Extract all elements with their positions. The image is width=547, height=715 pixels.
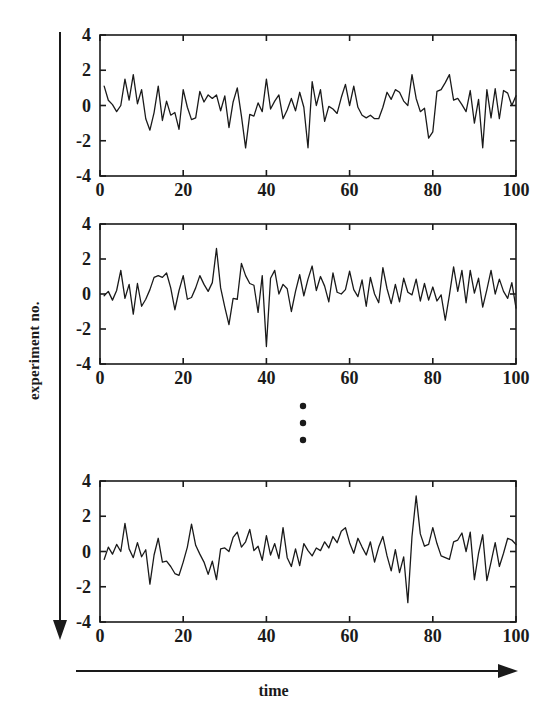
x-tick-label: 0 <box>96 180 105 200</box>
y-tick-label: -4 <box>76 612 91 632</box>
panel-frame <box>100 224 516 364</box>
plot-canvas: -4-2024020406080100-4-2024020406080100-4… <box>0 0 547 715</box>
chart-panel-2: -4-2024020406080100 <box>76 214 530 388</box>
x-tick-label: 40 <box>257 368 275 388</box>
x-tick-label: 20 <box>174 368 192 388</box>
x-tick-label: 20 <box>174 626 192 646</box>
y-tick-label: -2 <box>76 319 91 339</box>
x-tick-label: 40 <box>257 626 275 646</box>
x-tick-label: 60 <box>341 368 359 388</box>
y-tick-label: 2 <box>82 60 91 80</box>
panels-layer: -4-2024020406080100-4-2024020406080100-4… <box>76 25 530 646</box>
vertical-ellipsis-icon <box>300 403 306 443</box>
y-tick-label: 2 <box>82 506 91 526</box>
y-tick-label: 4 <box>82 214 91 234</box>
y-tick-label: 2 <box>82 249 91 269</box>
vertical-axis-label: experiment no. <box>26 200 43 400</box>
series-line <box>104 249 516 347</box>
x-tick-label: 60 <box>341 180 359 200</box>
chart-panel-1: -4-2024020406080100 <box>76 25 530 200</box>
y-tick-label: -4 <box>76 166 91 186</box>
time-axis-arrow <box>76 664 518 678</box>
time-series-figure: experiment no. time -4-2024020406080100-… <box>0 0 547 715</box>
x-tick-label: 60 <box>341 626 359 646</box>
x-tick-label: 80 <box>424 368 442 388</box>
panel-frame <box>100 35 516 176</box>
y-tick-label: 4 <box>82 471 91 491</box>
x-tick-label: 80 <box>424 626 442 646</box>
y-tick-label: 4 <box>82 25 91 45</box>
x-tick-label: 0 <box>96 626 105 646</box>
series-line <box>104 75 516 148</box>
chart-panel-3: -4-2024020406080100 <box>76 471 530 646</box>
y-tick-label: 0 <box>82 284 91 304</box>
experiment-axis-arrow <box>53 32 67 640</box>
series-line <box>104 496 516 603</box>
y-tick-label: 0 <box>82 542 91 562</box>
x-tick-label: 20 <box>174 180 192 200</box>
horizontal-axis-label: time <box>0 682 547 700</box>
x-tick-label: 0 <box>96 368 105 388</box>
y-tick-label: 0 <box>82 96 91 116</box>
y-tick-label: -2 <box>76 131 91 151</box>
x-tick-label: 100 <box>503 626 530 646</box>
x-tick-label: 100 <box>503 368 530 388</box>
y-tick-label: -4 <box>76 354 91 374</box>
x-tick-label: 40 <box>257 180 275 200</box>
x-tick-label: 100 <box>503 180 530 200</box>
y-tick-label: -2 <box>76 577 91 597</box>
x-tick-label: 80 <box>424 180 442 200</box>
